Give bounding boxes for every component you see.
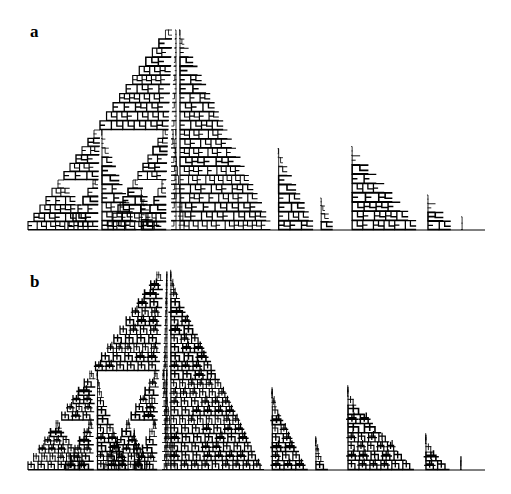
fractal-diagram-b	[0, 245, 511, 494]
fractal-diagram-a	[0, 0, 511, 245]
